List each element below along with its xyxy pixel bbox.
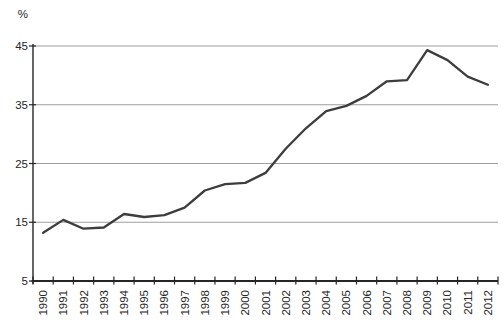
x-tick-label-2007: 2007 xyxy=(381,290,393,316)
y-axis-unit-label: % xyxy=(6,8,28,20)
x-tick-label-2004: 2004 xyxy=(320,289,332,315)
x-tick-label-2003: 2003 xyxy=(300,290,312,316)
chart-figure: % 51525354519901991199219931994199519961… xyxy=(0,0,504,324)
y-tick-label-25: 25 xyxy=(15,158,28,170)
x-tick-label-2012: 2012 xyxy=(482,290,494,316)
x-tick-label-1998: 1998 xyxy=(199,290,211,316)
x-tick-label-2008: 2008 xyxy=(401,290,413,316)
x-tick-label-1996: 1996 xyxy=(158,290,170,316)
x-tick-label-1999: 1999 xyxy=(219,290,231,316)
x-tick-label-1997: 1997 xyxy=(179,290,191,316)
x-tick-label-1995: 1995 xyxy=(138,290,150,316)
x-tick-label-2000: 2000 xyxy=(239,290,251,316)
x-tick-label-1994: 1994 xyxy=(118,289,130,315)
x-tick-label-1991: 1991 xyxy=(57,290,69,316)
data-series-line xyxy=(43,50,488,233)
y-tick-label-45: 45 xyxy=(15,40,28,52)
x-tick-label-1990: 1990 xyxy=(37,290,49,316)
x-tick-label-2010: 2010 xyxy=(441,290,453,316)
x-tick-label-2002: 2002 xyxy=(280,290,292,316)
y-tick-label-15: 15 xyxy=(15,216,28,228)
x-tick-label-2001: 2001 xyxy=(260,290,272,316)
x-tick-label-1992: 1992 xyxy=(78,290,90,316)
x-tick-label-2011: 2011 xyxy=(462,290,474,315)
x-tick-label-2006: 2006 xyxy=(361,290,373,316)
y-tick-label-5: 5 xyxy=(22,275,28,287)
x-tick-label-2009: 2009 xyxy=(421,290,433,316)
y-tick-label-35: 35 xyxy=(15,99,28,111)
x-tick-label-1993: 1993 xyxy=(98,290,110,316)
chart-canvas: 5152535451990199119921993199419951996199… xyxy=(0,0,504,324)
x-tick-label-2005: 2005 xyxy=(340,290,352,316)
